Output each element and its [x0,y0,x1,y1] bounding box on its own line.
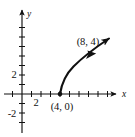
start-point-dot [58,92,63,97]
y-tick-label-2: 2 [11,69,16,80]
x-tick-label-2: 2 [33,97,38,108]
y-tick-label-neg2: -2 [8,108,17,119]
curve-group [58,39,109,97]
annotation-point-4-0: (4, 0) [51,101,74,113]
y-axis-label: y [26,9,32,19]
x-axis-label: x [121,89,127,99]
axes-group [4,10,116,133]
annotation-point-8-4: (8, 4) [77,36,100,48]
graph-figure: y x 2 2 -2 (8, 4) (4, 0) [0,0,135,137]
coordinate-plot: y x 2 2 -2 (8, 4) (4, 0) [0,0,135,137]
